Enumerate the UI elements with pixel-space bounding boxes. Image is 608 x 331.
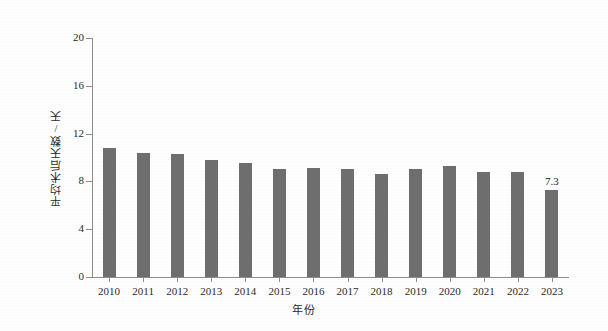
x-tick-mark	[109, 277, 110, 282]
bar-chart: 048121620 201020112012201320142015201620…	[0, 0, 608, 331]
x-tick-mark	[416, 277, 417, 282]
x-tick-mark	[177, 277, 178, 282]
x-tick-mark	[313, 277, 314, 282]
x-tick-mark	[450, 277, 451, 282]
x-tick-mark	[552, 277, 553, 282]
x-tick-label: 2023	[530, 285, 574, 297]
bar	[205, 160, 218, 277]
x-tick-mark	[518, 277, 519, 282]
x-axis-title: 年份	[0, 301, 608, 317]
y-tick-label: 4	[56, 223, 84, 234]
bar	[443, 166, 456, 277]
bar	[511, 172, 524, 277]
y-tick-mark	[86, 229, 92, 230]
x-tick-mark	[348, 277, 349, 282]
x-axis-line	[92, 277, 569, 278]
bar	[103, 148, 116, 277]
y-tick-mark	[86, 134, 92, 135]
x-tick-mark	[211, 277, 212, 282]
bar	[171, 154, 184, 277]
x-tick-mark	[382, 277, 383, 282]
y-tick-label: 0	[56, 271, 84, 282]
y-axis-title: 平均术后天数/天	[48, 110, 68, 207]
bar	[341, 169, 354, 277]
bar	[477, 172, 490, 277]
bar	[375, 174, 388, 277]
y-tick-mark	[86, 181, 92, 182]
bar	[239, 163, 252, 277]
y-tick-mark	[86, 38, 92, 39]
bar	[409, 169, 422, 277]
x-tick-mark	[279, 277, 280, 282]
x-tick-mark	[484, 277, 485, 282]
y-axis-line	[92, 38, 93, 278]
bar	[545, 190, 558, 277]
y-tick-label: 16	[56, 80, 84, 91]
bar	[273, 169, 286, 277]
x-tick-mark	[245, 277, 246, 282]
x-tick-mark	[143, 277, 144, 282]
y-tick-label: 20	[56, 32, 84, 43]
y-tick-mark	[86, 86, 92, 87]
bar	[137, 153, 150, 277]
y-tick-mark	[86, 277, 92, 278]
bar-value-label: 7.3	[532, 175, 572, 187]
bar	[307, 168, 320, 277]
